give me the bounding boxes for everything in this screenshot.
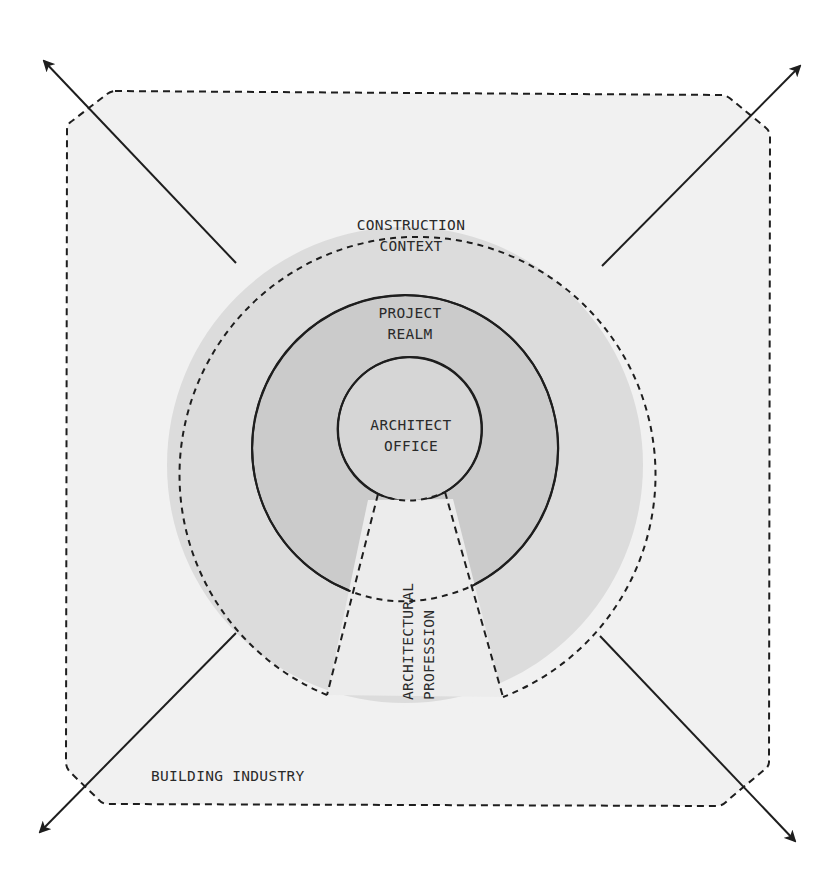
project-realm-label-line1: PROJECT — [378, 305, 441, 321]
construction-context-label-line1: CONSTRUCTION — [357, 217, 465, 233]
architect-office-label-line1: ARCHITECT — [370, 417, 451, 433]
profession-label-line1: ARCHITECTURAL — [400, 583, 416, 700]
project-realm-label-line2: REALM — [387, 326, 432, 342]
profession-label-line2: PROFESSION — [421, 610, 437, 700]
construction-context-label-line2: CONTEXT — [379, 238, 442, 254]
building-industry-label: BUILDING INDUSTRY — [151, 768, 305, 784]
architect-office-label-line2: OFFICE — [384, 438, 438, 454]
nested-context-diagram: CONSTRUCTION CONTEXT PROJECT REALM ARCHI… — [0, 0, 838, 888]
